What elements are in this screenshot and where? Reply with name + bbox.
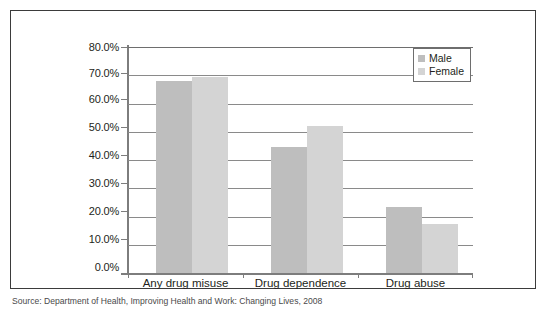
category-label: Any drug misuse (128, 277, 243, 289)
bar-male[interactable] (386, 207, 422, 273)
y-axis-labels: 80.0% 70.0% 60.0% 50.0% 40.0% 30.0% 20.0… (57, 11, 119, 310)
legend[interactable]: Male Female (413, 48, 471, 82)
legend-label: Female (429, 65, 464, 78)
bar-group-any-drug-misuse (146, 47, 238, 273)
y-tick-label: 30.0% (65, 177, 119, 189)
y-tick-label: 50.0% (65, 121, 119, 133)
legend-item-male[interactable]: Male (418, 52, 464, 65)
category-label: Drug dependence (243, 277, 358, 289)
bar-female[interactable] (422, 224, 458, 273)
y-tick-label: 10.0% (65, 233, 119, 245)
x-axis-labels: Any drug misuse Drug dependence Drug abu… (128, 277, 473, 297)
y-tick-label: 80.0% (65, 41, 119, 53)
y-tick-label: 60.0% (65, 93, 119, 105)
legend-swatch-male (418, 55, 425, 62)
y-tick-label: 0.0% (65, 261, 119, 273)
figure-caption: Source: Department of Health, Improving … (12, 296, 540, 307)
bar-male[interactable] (271, 147, 307, 273)
bar-female[interactable] (307, 126, 343, 273)
legend-item-female[interactable]: Female (418, 65, 464, 78)
y-tick-label: 40.0% (65, 149, 119, 161)
legend-label: Male (429, 52, 452, 65)
bar-female[interactable] (192, 77, 228, 273)
y-tick-label: 20.0% (65, 205, 119, 217)
figure-frame: 80.0% 70.0% 60.0% 50.0% 40.0% 30.0% 20.0… (10, 10, 536, 289)
bar-group-drug-dependence (261, 47, 353, 273)
bar-male[interactable] (156, 81, 192, 273)
y-tick-label: 70.0% (65, 67, 119, 79)
legend-swatch-female (418, 68, 425, 75)
x-axis-line (121, 273, 473, 275)
category-label: Drug abuse (358, 277, 473, 289)
